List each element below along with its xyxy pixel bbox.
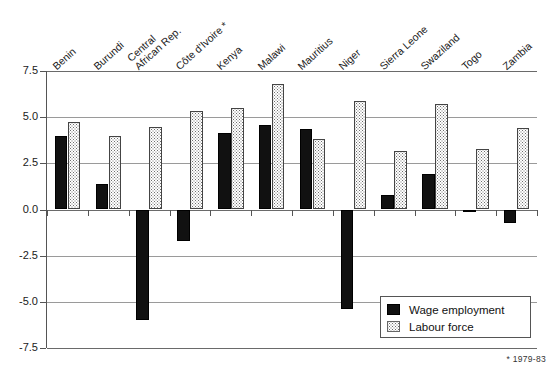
bar-labour-force — [149, 127, 162, 209]
legend-swatch-labour-force — [387, 321, 400, 332]
bar-wage-employment — [136, 210, 149, 321]
bar-wage-employment — [177, 210, 190, 241]
chart-legend: Wage employment Labour force — [380, 296, 531, 338]
y-axis-tick-mark — [40, 348, 46, 349]
bar-labour-force — [394, 151, 407, 209]
y-axis-tick-label: 0.0 — [2, 203, 38, 215]
bar-group — [341, 71, 367, 348]
y-axis-tick-label: 5.0 — [2, 110, 38, 122]
bar-wage-employment — [259, 125, 272, 209]
legend-item-wage-employment: Wage employment — [387, 301, 524, 318]
bar-labour-force — [272, 84, 285, 210]
x-axis-tick-mark — [415, 210, 416, 216]
x-axis-tick-mark — [374, 210, 375, 216]
y-axis-tick-label: -5.0 — [2, 295, 38, 307]
bar-labour-force — [109, 136, 122, 210]
x-axis-tick-mark — [88, 210, 89, 216]
x-axis-tick-mark — [292, 210, 293, 216]
bar-group — [55, 71, 81, 348]
bar-group — [136, 71, 162, 348]
legend-label-wage-employment: Wage employment — [409, 304, 504, 316]
bar-wage-employment — [300, 129, 313, 209]
bar-labour-force — [231, 108, 244, 210]
bar-labour-force — [354, 101, 367, 210]
x-axis-tick-mark — [455, 210, 456, 216]
legend-label-labour-force: Labour force — [409, 321, 474, 333]
y-axis-tick-label: -7.5 — [2, 341, 38, 353]
bar-labour-force — [313, 139, 326, 209]
bar-group — [259, 71, 285, 348]
y-axis-tick-label: 7.5 — [2, 64, 38, 76]
gridline--7-5 — [47, 348, 537, 349]
y-axis-tick-label: -2.5 — [2, 249, 38, 261]
x-axis-tick-mark — [210, 210, 211, 216]
bar-labour-force — [517, 128, 530, 209]
bar-wage-employment — [55, 136, 68, 210]
bar-group — [300, 71, 326, 348]
bar-labour-force — [435, 104, 448, 209]
bar-wage-employment — [504, 210, 517, 224]
bar-labour-force — [68, 122, 81, 210]
bar-wage-employment — [341, 210, 354, 310]
bar-group — [218, 71, 244, 348]
bar-labour-force — [190, 111, 203, 210]
x-axis-tick-mark — [537, 210, 538, 216]
footnote-source — [2, 364, 332, 373]
x-axis-tick-mark — [47, 210, 48, 216]
x-axis-tick-mark — [129, 210, 130, 216]
legend-item-labour-force: Labour force — [387, 318, 524, 335]
x-axis-tick-mark — [333, 210, 334, 216]
footnote-asterisk: * 1979-83 — [506, 354, 546, 364]
y-axis-tick-label: 2.5 — [2, 156, 38, 168]
bar-group — [96, 71, 122, 348]
bar-wage-employment — [381, 195, 394, 210]
bar-labour-force — [476, 149, 489, 209]
bar-chart-figure: BeninBurundiCentralAfrican Rep.Côte d'Iv… — [0, 0, 554, 375]
bar-wage-employment — [463, 210, 476, 212]
x-axis-tick-mark — [251, 210, 252, 216]
bar-wage-employment — [218, 133, 231, 210]
bar-group — [177, 71, 203, 348]
bar-wage-employment — [96, 184, 109, 210]
bar-wage-employment — [422, 174, 435, 209]
x-axis-tick-mark — [170, 210, 171, 216]
x-axis-tick-mark — [496, 210, 497, 216]
legend-swatch-wage-employment — [387, 304, 400, 315]
